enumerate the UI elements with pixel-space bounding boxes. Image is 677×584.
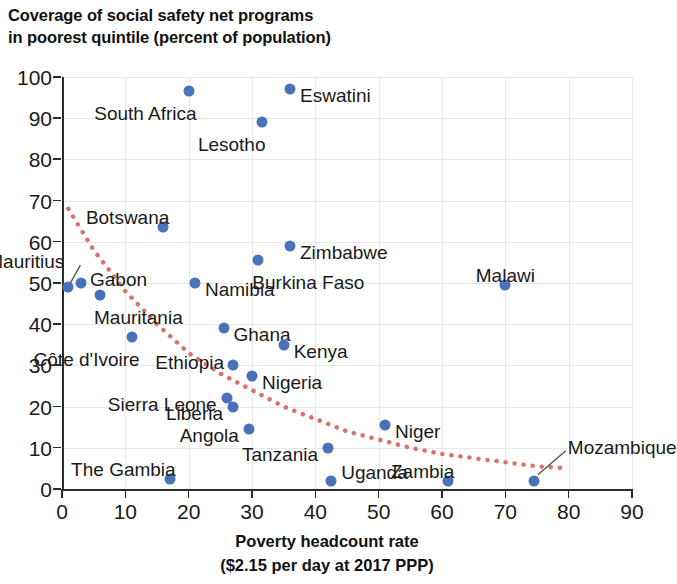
- x-tick-label: 0: [56, 501, 68, 523]
- x-tick-mark: [568, 489, 570, 498]
- x-tick-label: 40: [304, 501, 327, 523]
- y-tick-label: 40: [29, 314, 52, 335]
- y-tick-label: 0: [40, 479, 52, 500]
- x-tick-mark: [505, 489, 507, 498]
- chart-title: Coverage of social safety net programs i…: [8, 4, 608, 48]
- y-tick-label: 20: [29, 397, 52, 418]
- data-point[interactable]: [228, 401, 239, 412]
- chart-title-line-1: Coverage of social safety net programs: [8, 4, 608, 26]
- data-point-label: The Gambia: [71, 460, 176, 479]
- data-point-label: Mozambique: [568, 438, 677, 457]
- y-axis-tick-labels: 0102030405060708090100: [0, 77, 56, 489]
- data-point-label: Liberia: [166, 404, 223, 423]
- y-tick-mark: [53, 488, 61, 490]
- data-point[interactable]: [253, 255, 264, 266]
- y-tick-label: 70: [29, 191, 52, 212]
- y-tick-mark: [53, 282, 61, 284]
- data-point[interactable]: [63, 282, 74, 293]
- x-tick-label: 20: [177, 501, 200, 523]
- y-tick-label: 80: [29, 149, 52, 170]
- data-point-label: Gabon: [90, 270, 147, 289]
- gridline-horizontal: [62, 77, 632, 78]
- data-point[interactable]: [228, 360, 239, 371]
- chart-title-line-2: in poorest quintile (percent of populati…: [8, 26, 608, 48]
- y-tick-mark: [53, 200, 61, 202]
- data-point-label: Zimbabwe: [300, 243, 388, 262]
- data-point[interactable]: [247, 370, 258, 381]
- data-point-label: Burkina Faso: [252, 273, 364, 292]
- data-point-label: South Africa: [94, 104, 196, 123]
- x-tick-label: 90: [620, 501, 643, 523]
- y-tick-mark: [53, 76, 61, 78]
- y-tick-mark: [53, 406, 61, 408]
- y-tick-mark: [53, 117, 61, 119]
- data-point-label: Mauritius: [0, 252, 64, 271]
- data-point-label: Côte d'Ivoire: [34, 350, 140, 369]
- data-point[interactable]: [278, 339, 289, 350]
- data-point-label: Niger: [395, 422, 440, 441]
- x-tick-mark: [378, 489, 380, 498]
- data-point[interactable]: [218, 323, 229, 334]
- x-tick-mark: [251, 489, 253, 498]
- y-tick-mark: [53, 447, 61, 449]
- y-tick-mark: [53, 323, 61, 325]
- data-point[interactable]: [76, 278, 87, 289]
- data-point[interactable]: [323, 442, 334, 453]
- x-axis-title: Poverty headcount rate ($2.15 per day at…: [0, 529, 654, 577]
- data-point[interactable]: [285, 84, 296, 95]
- data-point[interactable]: [190, 278, 201, 289]
- x-axis-line: [62, 489, 633, 491]
- gridline-horizontal: [62, 201, 632, 202]
- gridline-horizontal: [62, 365, 632, 366]
- y-tick-mark: [53, 241, 61, 243]
- y-tick-label: 50: [29, 273, 52, 294]
- x-axis-title-line-1: Poverty headcount rate: [0, 529, 654, 553]
- x-tick-label: 30: [240, 501, 263, 523]
- data-point[interactable]: [183, 86, 194, 97]
- y-tick-mark: [53, 158, 61, 160]
- x-tick-mark: [441, 489, 443, 498]
- x-axis-title-line-2: ($2.15 per day at 2017 PPP): [0, 553, 654, 577]
- x-tick-mark: [631, 489, 633, 498]
- data-point-label: Botswana: [86, 208, 169, 227]
- gridline-vertical: [569, 77, 570, 489]
- data-point-label: Angola: [180, 426, 239, 445]
- data-point-label: Ethiopia: [155, 353, 224, 372]
- data-point-label: Malawi: [476, 266, 535, 285]
- data-point-label: Tanzania: [242, 445, 318, 464]
- gridline-vertical: [632, 77, 633, 489]
- x-tick-label: 10: [114, 501, 137, 523]
- x-tick-label: 60: [430, 501, 453, 523]
- gridline-vertical: [442, 77, 443, 489]
- x-tick-mark: [188, 489, 190, 498]
- data-point[interactable]: [243, 424, 254, 435]
- x-tick-mark: [315, 489, 317, 498]
- y-tick-label: 60: [29, 232, 52, 253]
- x-tick-mark: [125, 489, 127, 498]
- x-tick-mark: [61, 489, 63, 498]
- data-point-label: Zambia: [391, 462, 454, 481]
- gridline-horizontal: [62, 159, 632, 160]
- x-tick-label: 50: [367, 501, 390, 523]
- y-tick-label: 100: [17, 67, 52, 88]
- x-tick-label: 80: [557, 501, 580, 523]
- data-point-label: Eswatini: [300, 86, 371, 105]
- data-point[interactable]: [126, 331, 137, 342]
- data-point-label: Mauritania: [94, 308, 183, 327]
- y-tick-label: 10: [29, 438, 52, 459]
- gridline-horizontal: [62, 448, 632, 449]
- data-point[interactable]: [256, 117, 267, 128]
- data-point[interactable]: [326, 475, 337, 486]
- data-point[interactable]: [95, 290, 106, 301]
- y-tick-mark: [53, 364, 61, 366]
- data-point[interactable]: [285, 240, 296, 251]
- data-point-label: Kenya: [294, 342, 348, 361]
- y-tick-label: 90: [29, 108, 52, 129]
- data-point[interactable]: [380, 420, 391, 431]
- data-point-label: Nigeria: [262, 373, 322, 392]
- data-point-label: Lesotho: [198, 135, 266, 154]
- data-point[interactable]: [528, 475, 539, 486]
- x-tick-label: 70: [494, 501, 517, 523]
